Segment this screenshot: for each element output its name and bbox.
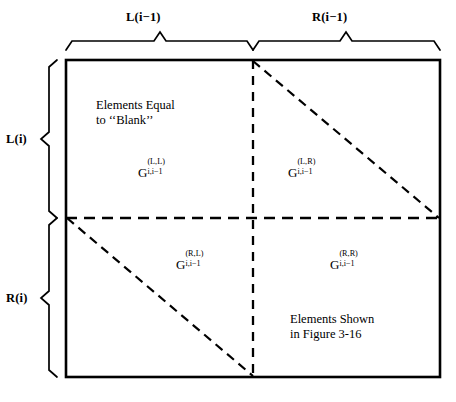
bottom-right-symbol-subscript: i,i−1 (339, 260, 357, 268)
top-right-symbol-subscript: i,i−1 (297, 168, 315, 176)
quadrant-label-bottom-left: G(R,L)i,i−1 (176, 255, 203, 273)
top-left-symbol-base: G (138, 165, 147, 181)
bottom-right-note: Elements Shown in Figure 3-16 (290, 312, 374, 343)
bracket-top-left-shape (66, 32, 253, 50)
bracket-top-left-label: L(i−1) (126, 10, 161, 25)
top-left-note: Elements Equal to ‘‘Blank’’ (96, 98, 175, 129)
bracket-left-top-label: L(i) (6, 132, 27, 147)
bracket-left-top-shape (41, 60, 57, 218)
top-left-note-line-1: Elements Equal (96, 98, 175, 113)
top-left-symbol-superscript: (L,L) (147, 158, 165, 166)
bottom-left-symbol-base: G (176, 257, 185, 273)
bottom-right-symbol-superscript: (R,R) (339, 250, 357, 258)
bottom-right-note-line-1: Elements Shown (290, 312, 374, 327)
bottom-right-symbol-base: G (330, 257, 339, 273)
bracket-top-right-shape (253, 32, 440, 50)
quadrant-label-bottom-right: G(R,R)i,i−1 (330, 255, 358, 273)
bottom-right-note-line-2: in Figure 3-16 (290, 327, 374, 342)
bracket-top-right-label: R(i−1) (312, 10, 347, 25)
diagonal-bottom-left (67, 218, 253, 376)
bottom-left-symbol-superscript: (R,L) (185, 250, 203, 258)
top-right-symbol-superscript: (L,R) (297, 158, 315, 166)
quadrant-label-top-left: G(L,L)i,i−1 (138, 163, 165, 181)
bottom-left-symbol-subscript: i,i−1 (185, 260, 203, 268)
bracket-left-bottom-shape (41, 218, 57, 377)
quadrant-label-top-right: G(L,R)i,i−1 (288, 163, 315, 181)
top-left-symbol-subscript: i,i−1 (147, 168, 165, 176)
figure-container: L(i−1) R(i−1) L(i) R(i) Elements Equal t… (0, 0, 456, 402)
bracket-left-bottom-label: R(i) (6, 291, 28, 306)
top-right-symbol-base: G (288, 165, 297, 181)
top-left-note-line-2: to ‘‘Blank’’ (96, 113, 175, 128)
diagonal-top-right (253, 61, 439, 218)
figure-linework (0, 0, 456, 402)
